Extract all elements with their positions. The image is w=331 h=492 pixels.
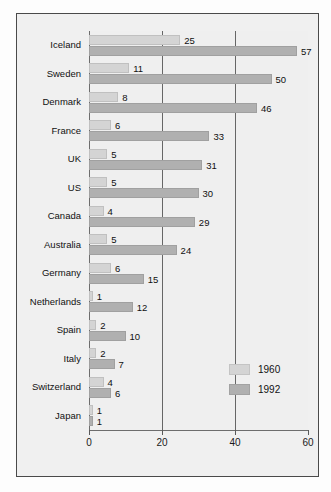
- bar-value-canada-1992: 29: [199, 218, 210, 228]
- category-label-denmark: Denmark: [42, 97, 81, 107]
- bar-value-sweden-1992: 50: [276, 75, 287, 85]
- bar-italy-1960[interactable]: [89, 348, 96, 358]
- chart-page: 0204060 Iceland2557Sweden1150Denmark846F…: [0, 0, 331, 492]
- bar-us-1992[interactable]: [89, 188, 199, 198]
- bar-value-netherlands-1960: 1: [97, 292, 102, 302]
- bar-value-japan-1992: 1: [97, 417, 102, 427]
- bar-switzerland-1992[interactable]: [89, 388, 111, 398]
- bar-value-germany-1960: 6: [115, 264, 120, 274]
- bar-value-germany-1992: 15: [148, 275, 159, 285]
- bar-canada-1992[interactable]: [89, 217, 195, 227]
- bar-value-uk-1992: 31: [206, 161, 217, 171]
- category-label-netherlands: Netherlands: [30, 297, 81, 307]
- x-tick-20: [162, 430, 163, 435]
- bar-italy-1992[interactable]: [89, 359, 115, 369]
- category-label-sweden: Sweden: [47, 69, 81, 79]
- bar-value-france-1960: 6: [115, 121, 120, 131]
- bar-japan-1960[interactable]: [89, 405, 93, 415]
- category-label-uk: UK: [68, 154, 81, 164]
- gridline-20: [162, 31, 163, 430]
- bar-netherlands-1992[interactable]: [89, 302, 133, 312]
- legend-label-1992: 1992: [258, 385, 280, 395]
- category-label-iceland: Iceland: [50, 40, 81, 50]
- x-tick-label-20: 20: [156, 437, 167, 448]
- category-label-us: US: [68, 183, 81, 193]
- bar-france-1992[interactable]: [89, 131, 209, 141]
- legend-label-1960: 1960: [258, 365, 280, 375]
- category-label-france: France: [51, 126, 81, 136]
- bar-netherlands-1960[interactable]: [89, 291, 93, 301]
- category-label-switzerland: Switzerland: [32, 382, 81, 392]
- bar-switzerland-1960[interactable]: [89, 377, 104, 387]
- bar-uk-1992[interactable]: [89, 160, 202, 170]
- legend-item-1992: 1992: [229, 384, 280, 395]
- bar-iceland-1992[interactable]: [89, 46, 297, 56]
- bar-germany-1960[interactable]: [89, 263, 111, 273]
- bar-value-japan-1960: 1: [97, 406, 102, 416]
- legend-item-1960: 1960: [229, 364, 280, 375]
- bar-value-denmark-1960: 8: [122, 93, 127, 103]
- bar-value-france-1992: 33: [213, 132, 224, 142]
- bar-value-italy-1992: 7: [119, 360, 124, 370]
- bar-france-1960[interactable]: [89, 120, 111, 130]
- x-tick-60: [308, 430, 309, 435]
- bar-iceland-1960[interactable]: [89, 35, 180, 45]
- bar-value-iceland-1992: 57: [301, 47, 312, 57]
- legend-swatch-1960: [229, 364, 250, 375]
- bar-value-switzerland-1960: 4: [108, 378, 113, 388]
- bar-value-denmark-1992: 46: [261, 104, 272, 114]
- x-axis-line: [89, 430, 308, 431]
- category-label-australia: Australia: [44, 240, 81, 250]
- bar-value-switzerland-1992: 6: [115, 389, 120, 399]
- category-label-germany: Germany: [42, 268, 81, 278]
- x-tick-label-60: 60: [302, 437, 313, 448]
- bar-value-sweden-1960: 11: [133, 64, 143, 74]
- legend-swatch-1992: [229, 384, 250, 395]
- bar-value-us-1992: 30: [203, 189, 214, 199]
- bar-value-netherlands-1992: 12: [137, 303, 148, 313]
- bar-japan-1992[interactable]: [89, 416, 93, 426]
- bar-value-uk-1960: 5: [111, 150, 116, 160]
- category-label-japan: Japan: [55, 411, 81, 421]
- bar-canada-1960[interactable]: [89, 206, 104, 216]
- bar-denmark-1960[interactable]: [89, 92, 118, 102]
- x-tick-40: [235, 430, 236, 435]
- bar-value-us-1960: 5: [111, 178, 116, 188]
- bar-value-spain-1960: 2: [100, 321, 105, 331]
- figure-frame: 0204060 Iceland2557Sweden1150Denmark846F…: [16, 13, 319, 477]
- bar-value-canada-1960: 4: [108, 207, 113, 217]
- bar-value-australia-1960: 5: [111, 235, 116, 245]
- bar-sweden-1960[interactable]: [89, 63, 129, 73]
- bar-sweden-1992[interactable]: [89, 74, 272, 84]
- bar-value-iceland-1960: 25: [184, 36, 195, 46]
- category-label-spain: Spain: [57, 325, 81, 335]
- bar-value-australia-1992: 24: [181, 246, 192, 256]
- bar-value-spain-1992: 10: [130, 332, 141, 342]
- x-tick-label-40: 40: [229, 437, 240, 448]
- bar-uk-1960[interactable]: [89, 149, 107, 159]
- category-label-italy: Italy: [64, 354, 81, 364]
- bar-australia-1960[interactable]: [89, 234, 107, 244]
- category-label-canada: Canada: [48, 211, 81, 221]
- x-tick-0: [89, 430, 90, 435]
- x-tick-label-0: 0: [86, 437, 92, 448]
- bar-spain-1992[interactable]: [89, 331, 126, 341]
- bar-australia-1992[interactable]: [89, 245, 177, 255]
- bar-denmark-1992[interactable]: [89, 103, 257, 113]
- bar-spain-1960[interactable]: [89, 320, 96, 330]
- chart-legend: 1960 1992: [229, 364, 280, 404]
- bar-value-italy-1960: 2: [100, 349, 105, 359]
- bar-germany-1992[interactable]: [89, 274, 144, 284]
- bar-us-1960[interactable]: [89, 177, 107, 187]
